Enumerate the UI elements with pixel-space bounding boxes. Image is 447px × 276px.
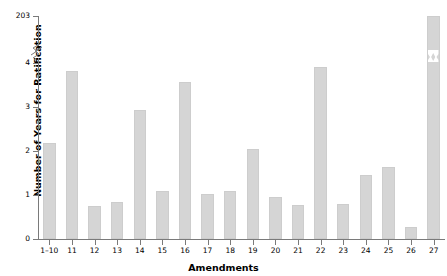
y-tick-mark [33,16,39,17]
x-tick-label: 12 [83,246,106,255]
x-tick-label: 14 [128,246,151,255]
x-tick-label: 18 [219,246,242,255]
x-tick-mark [230,240,231,245]
x-tick-mark [49,240,50,245]
y-tick-mark [33,239,39,240]
x-tick-mark [185,240,186,245]
bar [156,191,168,239]
x-tick-mark [388,240,389,245]
x-tick-label: 20 [264,246,287,255]
bar [179,82,191,239]
x-tick-label: 22 [309,246,332,255]
bar [292,205,304,239]
bar [269,197,281,239]
x-tick-label: 16 [174,246,197,255]
x-tick-label: 23 [332,246,355,255]
x-tick-label: 19 [242,246,265,255]
bar [224,191,236,239]
y-tick-label: 4 [25,58,30,67]
y-tick-mark [33,63,39,64]
x-tick-mark [95,240,96,245]
bar [314,67,326,239]
x-tick-mark [298,240,299,245]
x-tick-label: 13 [106,246,129,255]
x-tick-mark [72,240,73,245]
bar-chart: Number of Years for Ratification Amendme… [0,0,447,276]
x-tick-mark [253,240,254,245]
y-tick-label: 3 [25,102,30,111]
x-tick-label: 26 [400,246,423,255]
x-tick-mark [117,240,118,245]
y-axis-line-lower [38,58,39,240]
bar [427,16,439,239]
x-tick-mark [321,240,322,245]
x-tick-mark [162,240,163,245]
x-tick-label: 1–10 [38,246,61,255]
x-tick-label: 17 [196,246,219,255]
x-tick-mark [434,240,435,245]
x-tick-mark [411,240,412,245]
bar [360,175,372,239]
bar [382,167,394,239]
x-tick-mark [140,240,141,245]
x-tick-label: 11 [61,246,84,255]
x-tick-label: 27 [422,246,445,255]
x-tick-mark [208,240,209,245]
x-tick-label: 21 [287,246,310,255]
bar-break-icon [428,47,438,59]
x-tick-label: 24 [355,246,378,255]
bar [111,202,123,239]
y-tick-mark [33,107,39,108]
bar [66,71,78,239]
bar [201,194,213,239]
y-tick-label: 0 [25,234,30,243]
x-tick-mark [275,240,276,245]
bar [247,149,259,239]
x-tick-label: 25 [377,246,400,255]
x-axis-title: Amendments [0,262,447,273]
bar [43,143,55,239]
x-tick-label: 15 [151,246,174,255]
axis-break-icon [29,42,49,60]
x-tick-mark [366,240,367,245]
y-tick-label: 2 [25,146,30,155]
x-axis-line [38,239,445,240]
y-tick-mark [33,195,39,196]
y-tick-label: 203 [16,11,30,20]
bar [88,206,100,239]
bar [405,227,417,239]
x-tick-mark [343,240,344,245]
y-tick-mark [33,151,39,152]
y-tick-label: 1 [25,190,30,199]
y-axis-title: Number of Years for Ratification [32,11,43,211]
bar [134,110,146,239]
bar [337,204,349,239]
